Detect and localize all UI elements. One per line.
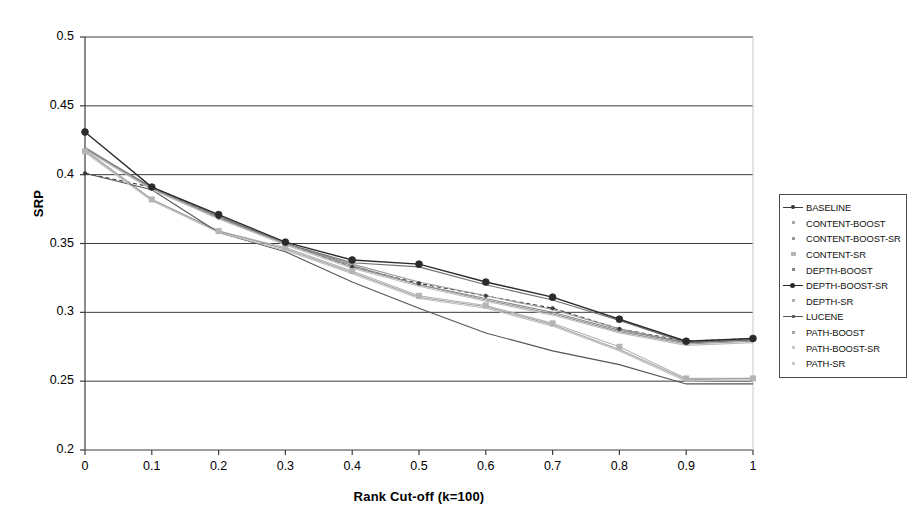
x-tick-label: 0.9	[666, 459, 706, 473]
legend-item: CONTENT-BOOST-SR	[780, 231, 904, 247]
legend-item: PATH-BOOST	[780, 325, 904, 341]
legend-item-label: PATH-SR	[806, 358, 845, 369]
x-tick-label: 1	[733, 459, 773, 473]
legend-item: DEPTH-BOOST	[780, 262, 904, 278]
data-point-marker	[750, 335, 757, 342]
y-axis-title: SRP	[31, 174, 46, 234]
legend-item: LUCENE	[780, 309, 904, 325]
legend-item-label: DEPTH-BOOST	[806, 265, 873, 276]
legend-item-label: CONTENT-BOOST	[806, 218, 885, 229]
data-point-marker	[683, 338, 690, 345]
y-tick-label: 0.45	[32, 99, 74, 111]
x-tick-label: 0.2	[199, 459, 239, 473]
legend-swatch-icon	[780, 263, 806, 277]
legend-item-label: LUCENE	[806, 311, 843, 322]
data-point-marker	[683, 375, 689, 381]
legend-item-label: PATH-BOOST	[806, 327, 865, 338]
series-line	[85, 173, 753, 341]
x-tick-label: 0	[65, 459, 105, 473]
series-line	[85, 173, 753, 384]
legend-swatch-icon	[780, 279, 806, 293]
data-point-marker	[282, 239, 289, 246]
y-tick-label: 0.35	[32, 237, 74, 249]
legend-swatch-icon	[780, 326, 806, 340]
x-tick-label: 0.1	[132, 459, 172, 473]
data-point-marker	[482, 279, 489, 286]
legend-swatch-icon	[780, 232, 806, 246]
x-tick-label: 0.7	[533, 459, 573, 473]
data-point-marker	[82, 129, 89, 136]
legend-item-label: PATH-BOOST-SR	[806, 343, 880, 354]
x-tick-label: 0.5	[399, 459, 439, 473]
legend-item: BASELINE	[780, 200, 904, 216]
legend-item-label: CONTENT-SR	[806, 249, 866, 260]
x-tick-label: 0.6	[466, 459, 506, 473]
series-line	[85, 149, 753, 344]
legend-item: PATH-BOOST-SR	[780, 340, 904, 356]
y-tick-label: 0.3	[32, 305, 74, 317]
data-point-marker	[83, 171, 87, 175]
data-point-marker	[82, 148, 88, 154]
y-tick-label: 0.4	[32, 168, 74, 180]
legend-item: PATH-SR	[780, 356, 904, 372]
data-point-marker	[616, 316, 623, 323]
data-point-marker	[148, 184, 155, 191]
data-point-marker	[483, 302, 489, 308]
series-line	[85, 150, 753, 345]
data-point-marker	[349, 268, 355, 274]
data-point-marker	[750, 375, 756, 381]
legend-swatch-icon	[780, 201, 806, 215]
data-point-marker	[216, 228, 222, 234]
y-tick-label: 0.25	[32, 374, 74, 386]
data-point-marker	[416, 261, 423, 268]
series-line	[85, 149, 753, 343]
x-tick-label: 0.3	[265, 459, 305, 473]
legend-swatch-icon	[780, 341, 806, 355]
legend-item-label: DEPTH-SR	[806, 296, 853, 307]
data-point-marker	[551, 306, 555, 310]
legend-item-label: DEPTH-BOOST-SR	[806, 280, 888, 291]
chart-legend: BASELINECONTENT-BOOSTCONTENT-BOOST-SRCON…	[779, 194, 907, 378]
data-point-marker	[149, 196, 155, 202]
legend-item-label: CONTENT-BOOST-SR	[806, 233, 901, 244]
data-point-marker	[616, 344, 622, 350]
data-point-marker	[349, 257, 356, 264]
x-axis-title: Rank Cut-off (k=100)	[85, 489, 753, 504]
legend-item: DEPTH-SR	[780, 294, 904, 310]
data-point-marker	[215, 211, 222, 218]
plot-canvas	[0, 0, 915, 530]
data-point-marker	[484, 294, 488, 298]
data-point-marker	[618, 327, 622, 331]
legend-swatch-icon	[780, 216, 806, 230]
series-line	[85, 132, 753, 341]
legend-item: DEPTH-BOOST-SR	[780, 278, 904, 294]
series-line	[85, 149, 753, 343]
legend-swatch-icon	[780, 310, 806, 324]
data-point-marker	[549, 294, 556, 301]
legend-swatch-icon	[780, 357, 806, 371]
y-tick-label: 0.2	[32, 443, 74, 455]
data-point-marker	[416, 293, 422, 299]
y-tick-label: 0.5	[32, 30, 74, 42]
x-tick-label: 0.4	[332, 459, 372, 473]
legend-item-label: BASELINE	[806, 202, 851, 213]
series-line	[85, 147, 753, 342]
chart-figure: SRP Rank Cut-off (k=100) 0.20.250.30.350…	[0, 0, 915, 530]
legend-item: CONTENT-SR	[780, 247, 904, 263]
legend-item: CONTENT-BOOST	[780, 216, 904, 232]
legend-swatch-icon	[780, 248, 806, 262]
legend-swatch-icon	[780, 294, 806, 308]
data-point-marker	[550, 320, 556, 326]
x-tick-label: 0.8	[599, 459, 639, 473]
data-point-marker	[417, 282, 421, 286]
